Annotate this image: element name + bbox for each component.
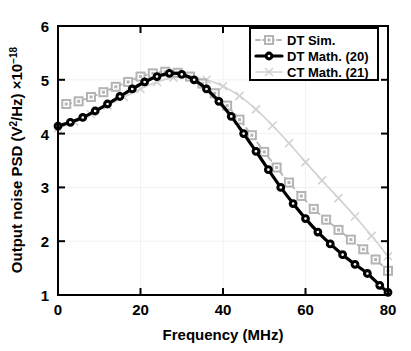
y-tick-label: 1 [41,287,49,304]
data-point-marker [322,216,330,224]
y-tick-label: 4 [41,126,50,143]
data-point-marker [265,36,273,44]
data-point-marker [153,73,160,80]
chart-canvas: 020406080 123456 Frequency (MHz) Output … [0,0,411,351]
data-point-marker [67,119,74,126]
data-point-marker [302,215,309,222]
y-tick-label: 2 [41,233,49,250]
y-axis-title-sup-b: −18 [8,46,19,63]
data-point-marker [87,93,95,101]
y-axis-title-main-a: Output noise PSD (V [8,126,25,273]
data-point-marker [116,93,123,100]
data-point-marker [79,114,86,121]
data-point-marker [92,107,99,114]
svg-text:Output noise PSD (V2/Hz) ×10−1: Output noise PSD (V2/Hz) ×10−18 [8,46,25,273]
y-tick-label: 5 [41,72,49,89]
data-point-marker [228,113,235,120]
data-point-marker [260,148,268,156]
legend-label-ct-math: CT Math. (21) [287,65,369,80]
data-point-marker [351,261,358,268]
data-point-marker [129,85,136,92]
data-point-marker [285,179,293,187]
data-point-marker [203,85,210,92]
data-point-marker [215,98,222,105]
y-axis-title: Output noise PSD (V2/Hz) ×10−18 [8,46,25,273]
data-point-marker [364,270,371,277]
data-point-marker [290,200,297,207]
chart-figure: 020406080 123456 Frequency (MHz) Output … [0,0,411,351]
data-point-marker [335,226,343,234]
y-axis-title-main-b: /Hz) ×10 [8,64,25,121]
legend-label-dt-sim: DT Sim. [287,33,335,48]
data-point-marker [75,97,83,105]
data-point-marker [178,71,185,78]
x-tick-label: 20 [132,301,149,318]
data-point-marker [347,236,355,244]
x-tick-labels: 020406080 [54,301,397,318]
y-tick-labels: 123456 [41,18,50,304]
data-point-marker [372,255,380,263]
data-point-marker [265,166,272,173]
data-point-marker [252,148,259,155]
data-point-marker [265,52,272,59]
data-point-marker [273,163,281,171]
data-point-marker [240,130,247,137]
y-tick-label: 6 [41,18,49,35]
y-tick-label: 3 [41,179,49,196]
x-tick-label: 60 [297,301,314,318]
legend[interactable]: DT Sim. DT Math. (20) CT Math. (21) [250,28,378,80]
data-point-marker [359,245,367,253]
x-tick-label: 0 [54,301,62,318]
x-tick-label: 40 [215,301,232,318]
data-point-marker [376,282,383,289]
data-point-marker [310,205,318,213]
data-point-marker [112,83,120,91]
data-point-marker [339,251,346,258]
data-point-marker [62,100,70,108]
data-point-marker [104,100,111,107]
data-point-marker [297,192,305,200]
x-axis-title: Frequency (MHz) [163,326,284,343]
data-point-marker [191,76,198,83]
data-point-marker [141,78,148,85]
data-point-marker [166,70,173,77]
data-point-marker [327,240,334,247]
data-point-marker [99,88,107,96]
data-point-marker [248,131,256,139]
legend-label-dt-math: DT Math. (20) [287,49,369,64]
data-point-marker [314,228,321,235]
x-tick-label: 80 [380,301,397,318]
data-point-marker [277,184,284,191]
